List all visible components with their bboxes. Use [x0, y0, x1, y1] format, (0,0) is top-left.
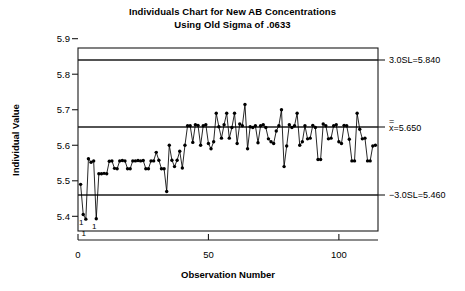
data-point-markers — [79, 103, 377, 221]
data-point — [110, 159, 113, 162]
lower-control-limit-label: −3.0SL=5.460 — [389, 190, 446, 200]
data-point — [280, 108, 283, 111]
data-point — [355, 112, 358, 115]
violation-label: 1 — [92, 222, 97, 231]
data-point — [277, 124, 280, 127]
data-point — [374, 144, 377, 147]
data-point — [267, 137, 270, 140]
data-point — [95, 217, 98, 220]
data-point — [115, 167, 118, 170]
chart-canvas: 5.45.55.65.75.85.9 Individual Value 3.0S… — [0, 0, 465, 291]
data-point — [285, 144, 288, 147]
data-point — [233, 112, 236, 115]
data-point — [319, 158, 322, 161]
data-point — [105, 172, 108, 175]
x-tick-label: 100 — [331, 249, 347, 260]
data-point — [128, 167, 131, 170]
data-point — [303, 124, 306, 127]
data-point — [79, 183, 82, 186]
data-point — [298, 144, 301, 147]
data-point — [199, 144, 202, 147]
data-point — [173, 165, 176, 168]
data-point — [82, 213, 85, 216]
data-point — [308, 136, 311, 139]
data-point — [246, 147, 249, 150]
x-tick-label: 50 — [203, 249, 214, 260]
x-axis-tick-marks — [78, 234, 339, 240]
data-point — [225, 112, 228, 115]
x-axis-title: Observation Number — [181, 269, 275, 280]
data-point — [275, 129, 278, 132]
upper-control-limit-label: 3.0SL=5.840 — [389, 55, 440, 65]
center-line-label: x=5.650 — [389, 123, 421, 133]
data-point — [293, 124, 296, 127]
x-tick-label: 0 — [75, 249, 80, 260]
data-point — [178, 150, 181, 153]
violation-label: 1 — [79, 218, 84, 227]
y-tick-label: 5.9 — [57, 33, 70, 44]
data-point — [329, 136, 332, 139]
data-point — [272, 142, 275, 145]
data-point — [222, 123, 225, 126]
data-point — [123, 159, 126, 162]
data-point — [256, 141, 259, 144]
data-point — [295, 112, 298, 115]
data-point — [314, 126, 317, 129]
data-point — [204, 123, 207, 126]
violation-labels: 111 — [79, 218, 97, 239]
data-point — [345, 124, 348, 127]
data-point — [358, 128, 361, 131]
violation-label: 1 — [82, 229, 87, 238]
data-point — [215, 112, 218, 115]
data-point — [363, 136, 366, 139]
data-point — [235, 142, 238, 145]
data-point — [212, 140, 215, 143]
data-point — [157, 158, 160, 161]
data-point — [288, 123, 291, 126]
data-point — [162, 167, 165, 170]
data-point — [311, 124, 314, 127]
y-tick-label: 5.7 — [57, 104, 70, 115]
data-point — [353, 159, 356, 162]
data-point — [348, 138, 351, 141]
data-point — [207, 142, 210, 145]
data-point — [241, 124, 244, 127]
data-point — [368, 159, 371, 162]
data-point — [196, 124, 199, 127]
y-axis-tick-labels: 5.45.55.65.75.85.9 — [57, 33, 70, 222]
data-point — [142, 159, 145, 162]
individuals-control-chart: Individuals Chart for New AB Concentrati… — [0, 0, 465, 291]
data-point — [340, 142, 343, 145]
data-point — [301, 140, 304, 143]
data-point — [217, 125, 220, 128]
data-point — [175, 158, 178, 161]
data-point — [147, 167, 150, 170]
data-point — [243, 103, 246, 106]
data-point — [262, 123, 265, 126]
data-point — [264, 126, 267, 129]
data-point — [220, 136, 223, 139]
data-point — [181, 166, 184, 169]
data-point — [84, 217, 87, 220]
data-point — [87, 157, 90, 160]
data-point — [282, 165, 285, 168]
data-point — [335, 123, 338, 126]
data-point — [168, 144, 171, 147]
plot-frame — [78, 48, 378, 231]
data-point — [228, 136, 231, 139]
x-axis-tick-labels: 050100 — [75, 249, 346, 260]
y-tick-label: 5.6 — [57, 140, 70, 151]
y-axis-title: Individual Value — [10, 104, 21, 176]
data-point — [170, 158, 173, 161]
data-point — [155, 151, 158, 154]
data-point — [92, 159, 95, 162]
data-point — [165, 190, 168, 193]
data-point — [152, 159, 155, 162]
y-tick-label: 5.5 — [57, 175, 70, 186]
y-axis-tick-marks — [72, 39, 78, 217]
data-point — [188, 124, 191, 127]
data-point — [183, 144, 186, 147]
data-point — [230, 126, 233, 129]
data-point — [191, 141, 194, 144]
data-point — [254, 124, 257, 127]
